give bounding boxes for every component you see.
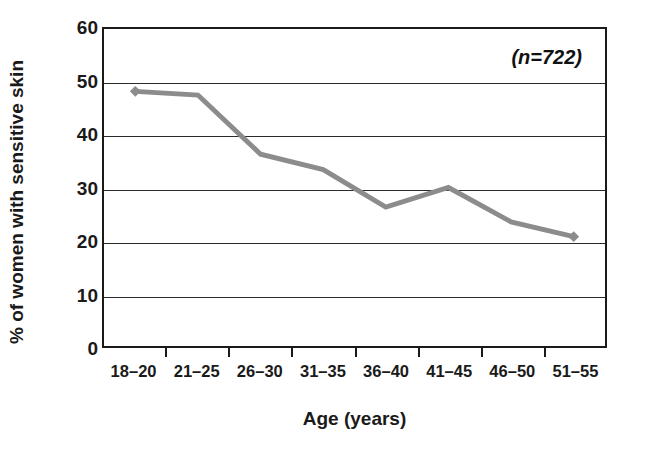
x-tick-mark [544, 348, 546, 357]
x-axis-tick-labels: 18–2021–2526–3031–3536–4041–4546–5051–55 [102, 362, 607, 388]
x-tick-label: 36–40 [363, 362, 409, 381]
x-tick-mark [355, 348, 357, 357]
data-point-marker [568, 231, 579, 242]
x-tick-label: 26–30 [237, 362, 283, 381]
series-polyline [135, 91, 573, 236]
y-tick-label: 30 [56, 178, 98, 197]
x-tick-label: 46–50 [489, 362, 535, 381]
data-series-line [104, 29, 605, 346]
x-axis-tick-marks [102, 348, 607, 357]
data-point-marker [130, 86, 141, 97]
y-tick-label: 0 [56, 339, 98, 358]
sample-size-annotation: (n=722) [511, 46, 582, 69]
x-tick-mark [481, 348, 483, 357]
chart-figure: % of women with sensitive skin 010203040… [0, 0, 661, 462]
y-axis-tick-labels: 0102030405060 [56, 27, 98, 348]
y-axis-title: % of women with sensitive skin [0, 22, 34, 382]
x-tick-mark [418, 348, 420, 357]
y-tick-label: 20 [56, 232, 98, 251]
y-tick-label: 60 [56, 18, 98, 37]
x-tick-label: 21–25 [174, 362, 220, 381]
x-tick-label: 18–20 [111, 362, 157, 381]
x-tick-label: 41–45 [426, 362, 472, 381]
x-tick-mark [165, 348, 167, 357]
y-tick-label: 50 [56, 71, 98, 90]
x-tick-mark [291, 348, 293, 357]
x-axis-title: Age (years) [102, 408, 607, 430]
y-tick-label: 40 [56, 125, 98, 144]
plot-area: (n=722) [102, 27, 607, 348]
x-tick-mark [228, 348, 230, 357]
x-tick-label: 31–35 [300, 362, 346, 381]
x-tick-label: 51–55 [552, 362, 598, 381]
y-tick-label: 10 [56, 285, 98, 304]
